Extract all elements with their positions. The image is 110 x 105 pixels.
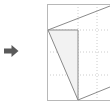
geometry-diagram [44,0,110,105]
lower-diagonal-edge [78,87,110,100]
geometry-svg [44,0,110,105]
figure-root [0,0,110,105]
upper-diagonal-edge [48,6,110,30]
right-arrow-icon [4,44,20,58]
arrow-glyph [4,45,19,57]
right-arrow-svg [4,44,20,58]
shape-group [48,6,110,100]
